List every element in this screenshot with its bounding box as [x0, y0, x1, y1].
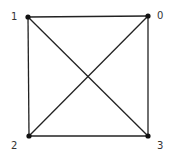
node-2	[26, 133, 31, 138]
node-label-0: 0	[157, 10, 163, 21]
node-3	[145, 133, 150, 138]
node-1	[25, 14, 30, 19]
edge-2-1	[28, 17, 29, 136]
node-label-1: 1	[11, 11, 17, 22]
edge-1-0	[28, 16, 148, 17]
node-0	[145, 13, 150, 18]
graph-diagram: 0 1 2 3	[0, 0, 173, 161]
node-label-3: 3	[157, 140, 163, 151]
node-label-2: 2	[11, 140, 17, 151]
